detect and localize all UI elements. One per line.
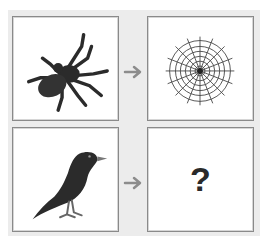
- question-mark: ?: [148, 128, 253, 231]
- answer-tile[interactable]: ?: [147, 127, 254, 232]
- bird-icon: [13, 128, 118, 231]
- spider-web-icon: [148, 17, 253, 120]
- arrow-right-icon: [123, 176, 143, 190]
- spider-web-tile: [147, 16, 254, 121]
- arrow-right-icon: [123, 65, 143, 79]
- spider-icon: [13, 17, 118, 120]
- spider-tile: [12, 16, 119, 121]
- bird-tile: [12, 127, 119, 232]
